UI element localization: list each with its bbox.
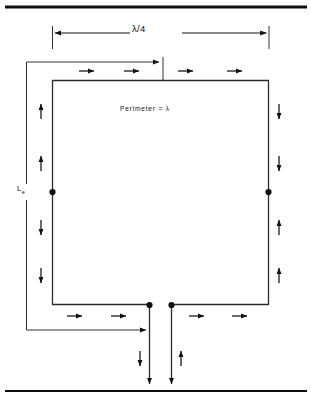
current-direction-arrows — [41, 71, 279, 366]
left-current-node-dot — [49, 189, 55, 195]
feed-terminal-left-dot — [146, 302, 152, 308]
perimeter-label: Perimeter = λ — [120, 106, 170, 113]
feed-terminal-right-dot — [168, 302, 174, 308]
diagram-svg — [0, 0, 311, 408]
lambda-quarter-dimension — [53, 26, 270, 49]
effective-length-label: Le — [17, 185, 25, 195]
effective-length-subscript: e — [22, 189, 25, 195]
junction-dots — [49, 189, 271, 308]
le-dimension-bracket — [27, 57, 164, 330]
right-current-node-dot — [265, 189, 271, 195]
lambda-quarter-label: λ/4 — [132, 24, 146, 34]
square-loop-conductor — [52, 80, 269, 305]
feed-transmission-line — [150, 305, 172, 384]
figure-canvas: λ/4 Perimeter = λ Le — [0, 0, 311, 408]
